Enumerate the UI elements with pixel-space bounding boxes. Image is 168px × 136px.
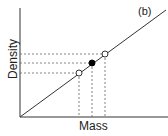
open-point-high (102, 51, 108, 57)
plot (0, 0, 168, 136)
panel-label: (b) (138, 5, 151, 17)
x-axis-label: Mass (79, 119, 108, 133)
filled-point (89, 60, 95, 66)
y-axis-label: Density (6, 34, 20, 84)
open-point-low (76, 70, 82, 76)
